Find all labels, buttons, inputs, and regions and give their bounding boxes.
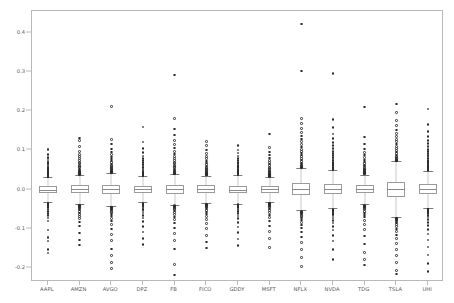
box-group-dpz: [127, 11, 159, 280]
outlier-point: [332, 225, 335, 228]
outlier-point: [142, 231, 145, 234]
outlier-point: [332, 118, 335, 121]
whisker-upper: [333, 170, 334, 184]
x-tick-mark: [395, 281, 396, 285]
outlier-point: [363, 148, 366, 151]
x-tick-mark: [110, 281, 111, 285]
outlier-point: [300, 256, 303, 259]
whisker-upper: [269, 177, 270, 186]
outlier-point: [332, 229, 335, 232]
whisker-lower: [428, 194, 429, 208]
outlier-point: [363, 223, 366, 226]
outlier-point: [78, 173, 81, 176]
median-line: [419, 189, 437, 190]
outlier-point: [268, 246, 271, 249]
x-tick-label-msft: MSFT: [262, 286, 276, 292]
outlier-point: [300, 265, 303, 268]
outlier-point: [427, 130, 430, 133]
outlier-point: [142, 225, 145, 228]
box-group-fico: [190, 11, 222, 280]
box-group-nflx: [286, 11, 318, 280]
outlier-point: [110, 138, 113, 141]
y-tick-label: -0.2: [15, 264, 25, 270]
outlier-point: [205, 241, 208, 244]
outlier-point: [173, 143, 176, 146]
outlier-point: [300, 248, 303, 251]
outlier-point: [205, 218, 208, 221]
y-tick-label: 0.3: [17, 68, 25, 74]
outlier-point: [110, 148, 113, 151]
outlier-point: [363, 106, 366, 109]
outlier-point: [395, 234, 398, 237]
outlier-point: [268, 237, 271, 240]
outlier-point: [395, 119, 398, 122]
outlier-point: [237, 238, 240, 241]
x-tick-label-fb: FB: [170, 286, 177, 292]
outlier-point: [268, 220, 271, 223]
y-tick-label: 0.4: [17, 29, 25, 35]
outlier-point: [427, 108, 430, 111]
outlier-point: [173, 248, 176, 251]
outlier-point: [363, 143, 366, 146]
outlier-point: [268, 133, 271, 136]
outlier-point: [47, 148, 50, 151]
whisker-lower: [206, 193, 207, 203]
cap-upper: [360, 175, 369, 176]
outlier-point: [110, 105, 113, 108]
outlier-point: [78, 145, 81, 148]
outlier-point: [173, 232, 176, 235]
whisker-upper: [364, 175, 365, 185]
outlier-point: [173, 222, 176, 225]
x-tick-mark: [364, 281, 365, 285]
outlier-point: [78, 244, 81, 247]
x-tick-mark: [269, 281, 270, 285]
outlier-point: [363, 136, 366, 139]
outlier-point: [427, 233, 430, 236]
box-group-uhi: [412, 11, 442, 280]
whisker-upper: [396, 161, 397, 181]
outlier-point: [110, 223, 113, 226]
outlier-point: [205, 247, 208, 250]
outlier-point: [268, 146, 271, 149]
whisker-lower: [333, 194, 334, 208]
outlier-point: [332, 137, 335, 140]
outlier-point: [427, 254, 430, 257]
outlier-point: [300, 224, 303, 227]
x-tick-label-aapl: AAPL: [40, 286, 53, 292]
outlier-point: [237, 244, 240, 247]
median-line: [261, 189, 279, 190]
outlier-point: [332, 248, 335, 251]
whisker-lower: [142, 193, 143, 203]
outlier-point: [78, 239, 81, 242]
box-group-msft: [254, 11, 286, 280]
x-tick-label-tdg: TDG: [358, 286, 369, 292]
outlier-point: [300, 117, 303, 120]
outlier-point: [237, 231, 240, 234]
outlier-point: [300, 227, 303, 230]
whisker-lower: [269, 193, 270, 202]
outlier-point: [173, 128, 176, 131]
outlier-point: [300, 166, 303, 169]
x-tick-label-amzn: AMZN: [71, 286, 87, 292]
outlier-point: [173, 218, 176, 221]
x-tick-mark: [142, 281, 143, 285]
whisker-lower: [47, 193, 48, 202]
outlier-point: [300, 241, 303, 244]
x-tick-mark: [427, 281, 428, 285]
x-tick-mark: [47, 281, 48, 285]
whisker-upper: [174, 174, 175, 185]
outlier-point: [110, 172, 113, 175]
outlier-point: [142, 141, 145, 144]
whisker-upper: [79, 175, 80, 186]
plot-axes: [31, 10, 443, 281]
box-group-tdg: [349, 11, 381, 280]
outlier-point: [47, 236, 50, 239]
whisker-upper: [206, 176, 207, 186]
x-tick-label-nflx: NFLX: [294, 286, 308, 292]
outlier-point: [395, 129, 398, 132]
median-line: [387, 189, 405, 190]
outlier-point: [332, 234, 335, 237]
outlier-point: [427, 270, 430, 273]
outlier-point: [300, 236, 303, 239]
x-tick-mark: [332, 281, 333, 285]
